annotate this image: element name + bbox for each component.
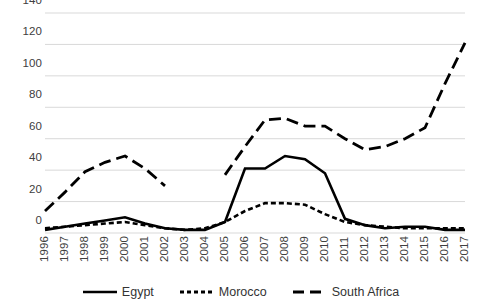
plot-area: [45, 13, 465, 233]
legend-label: South Africa: [332, 286, 399, 299]
legend-swatch-dashed-icon: [293, 287, 327, 297]
x-tick-label: 2004: [199, 222, 211, 262]
y-tick-label: 120: [2, 26, 42, 38]
x-tick-label: 2003: [179, 222, 191, 262]
x-tick-label: 2014: [399, 222, 411, 262]
x-tick-label: 2013: [379, 222, 391, 262]
y-axis: 140120100806040200: [0, 0, 42, 240]
x-tick-label: 2017: [459, 222, 471, 262]
series-line-south-africa: [45, 156, 165, 211]
legend-label: Morocco: [219, 286, 267, 299]
x-tick-label: 2005: [219, 222, 231, 262]
x-tick-label: 2007: [259, 222, 271, 262]
y-tick-label: 60: [2, 121, 42, 133]
y-tick-label: 0: [2, 215, 42, 227]
x-axis: 1996199719981999200020012002200320042005…: [45, 236, 465, 278]
series-line-egypt: [45, 156, 465, 230]
x-tick-label: 2016: [439, 222, 451, 262]
x-tick-label: 2000: [119, 222, 131, 262]
legend-item-morocco[interactable]: Morocco: [180, 286, 267, 299]
legend-item-south-africa[interactable]: South Africa: [293, 286, 399, 299]
x-tick-label: 2015: [419, 222, 431, 262]
legend-label: Egypt: [122, 286, 154, 299]
x-tick-label: 2001: [139, 222, 151, 262]
x-tick-label: 2012: [359, 222, 371, 262]
y-tick-label: 80: [2, 89, 42, 101]
x-tick-label: 1996: [39, 222, 51, 262]
legend-swatch-dotted-icon: [180, 287, 214, 297]
series-line-south-africa: [225, 43, 465, 175]
y-tick-label: 20: [2, 184, 42, 196]
x-tick-label: 2008: [279, 222, 291, 262]
x-tick-label: 1999: [99, 222, 111, 262]
y-tick-label: 140: [2, 0, 42, 7]
y-tick-label: 40: [2, 152, 42, 164]
x-tick-label: 2010: [319, 222, 331, 262]
y-tick-label: 100: [2, 58, 42, 70]
x-tick-label: 1997: [59, 222, 71, 262]
line-chart: 140120100806040200 199619971998199920002…: [0, 0, 482, 306]
series-lines: [45, 13, 465, 233]
x-tick-label: 2011: [339, 222, 351, 262]
legend-item-egypt[interactable]: Egypt: [83, 286, 154, 299]
legend-swatch-solid-icon: [83, 287, 117, 297]
x-tick-label: 1998: [79, 222, 91, 262]
x-tick-label: 2009: [299, 222, 311, 262]
x-tick-label: 2002: [159, 222, 171, 262]
chart-legend: EgyptMoroccoSouth Africa: [0, 281, 482, 303]
x-tick-label: 2006: [239, 222, 251, 262]
